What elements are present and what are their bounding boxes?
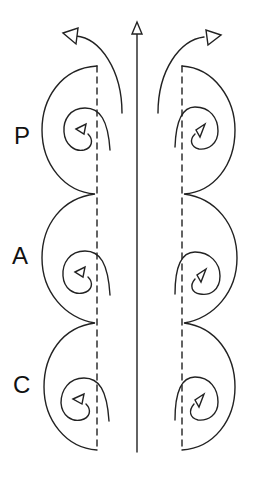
left-spiral-c-icon	[61, 378, 109, 421]
left-spiral-a-icon	[63, 251, 110, 295]
label-c: C	[13, 373, 30, 397]
diagram-canvas	[0, 0, 253, 479]
label-p: P	[14, 124, 30, 148]
left-outflow-arrow-icon	[63, 28, 122, 113]
central-axis-arrow-icon	[132, 22, 142, 452]
right-scallop-boundary	[182, 66, 237, 450]
left-scallop-boundary	[42, 66, 97, 450]
left-spiral-p-icon	[64, 108, 110, 150]
label-a: A	[12, 244, 28, 268]
right-outflow-arrow-icon	[158, 30, 221, 113]
